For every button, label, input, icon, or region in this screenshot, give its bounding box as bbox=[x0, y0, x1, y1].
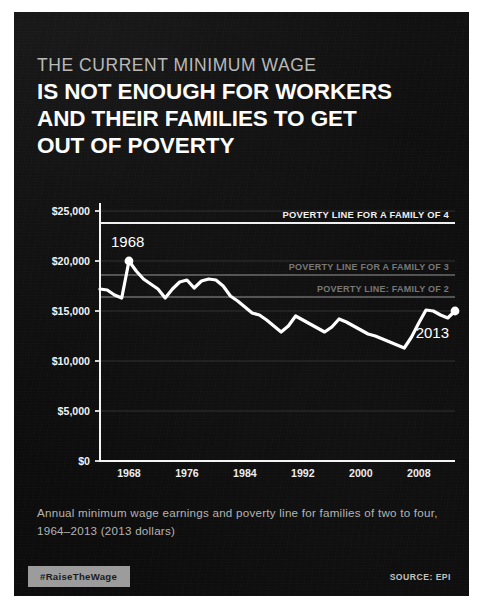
page-title: IS NOT ENOUGH FOR WORKERS AND THEIR FAMI… bbox=[37, 79, 449, 159]
hashtag-badge[interactable]: #RaiseTheWage bbox=[28, 566, 130, 587]
headline-line-3: OUT OF POVERTY bbox=[37, 133, 449, 160]
x-axis-label: 1976 bbox=[175, 467, 199, 479]
x-axis-label: 1984 bbox=[233, 467, 257, 479]
poverty-line-label-2: POVERTY LINE FOR A FAMILY OF 3 bbox=[289, 262, 449, 272]
poverty-line-label-1: POVERTY LINE FOR A FAMILY OF 4 bbox=[282, 209, 449, 220]
headline-block: THE CURRENT MINIMUM WAGE IS NOT ENOUGH F… bbox=[37, 56, 449, 159]
y-axis-label: $20,000 bbox=[52, 255, 90, 267]
y-axis-label: $0 bbox=[78, 455, 90, 467]
x-axis-label: 2000 bbox=[349, 467, 373, 479]
kicker-text: THE CURRENT MINIMUM WAGE bbox=[37, 56, 449, 74]
x-axis-label: 2008 bbox=[407, 467, 431, 479]
annotation-1968: 1968 bbox=[111, 233, 144, 250]
x-axis-label: 1992 bbox=[291, 467, 315, 479]
x-axis-label: 1968 bbox=[117, 467, 141, 479]
data-point-marker-2013 bbox=[451, 307, 460, 316]
data-point-marker-1968 bbox=[125, 257, 134, 266]
chart-caption: Annual minimum wage earnings and poverty… bbox=[37, 504, 442, 540]
headline-line-1: IS NOT ENOUGH FOR WORKERS bbox=[37, 79, 449, 106]
data-line-minimum-wage bbox=[100, 261, 455, 348]
headline-line-2: AND THEIR FAMILIES TO GET bbox=[37, 106, 449, 133]
y-axis-label: $10,000 bbox=[52, 355, 90, 367]
y-axis-label: $15,000 bbox=[52, 305, 90, 317]
annotation-2013: 2013 bbox=[416, 324, 449, 341]
y-axis-label: $5,000 bbox=[58, 405, 91, 417]
infographic-poster: THE CURRENT MINIMUM WAGE IS NOT ENOUGH F… bbox=[14, 12, 469, 596]
poverty-line-label-3: POVERTY LINE: FAMILY OF 2 bbox=[317, 284, 449, 294]
source-label: SOURCE: EPI bbox=[390, 572, 451, 582]
y-axis-label: $25,000 bbox=[52, 205, 90, 217]
poster-footer: #RaiseTheWage SOURCE: EPI bbox=[14, 564, 469, 596]
